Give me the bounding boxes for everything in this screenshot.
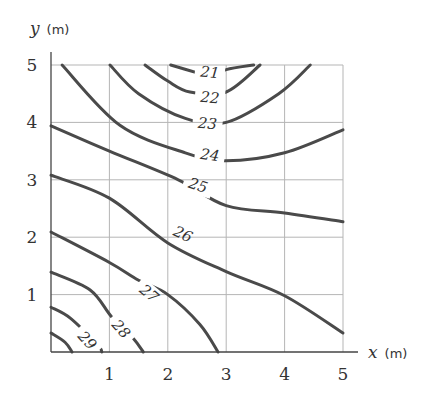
- y-tick-label: 3: [27, 170, 38, 190]
- x-tick-labels: 12345: [104, 364, 348, 384]
- contour-label: 25: [185, 174, 210, 197]
- y-axis-label: y (m): [29, 18, 69, 38]
- contour-lines: [51, 65, 343, 352]
- x-tick-label: 5: [338, 364, 349, 384]
- y-tick-labels: 12345: [27, 55, 38, 305]
- y-tick-label: 2: [27, 227, 38, 247]
- contour-label: 29: [73, 327, 100, 354]
- contour-line-27: [51, 232, 218, 352]
- contour-chart: 212223242526272829 12345 12345 x (m) y (…: [0, 0, 435, 403]
- contour-label: 21: [199, 63, 221, 83]
- contour-labels: 212223242526272829: [73, 63, 220, 354]
- x-tick-label: 2: [162, 364, 173, 384]
- contour-line-unlabeled: [51, 333, 72, 352]
- contour-line-25: [51, 126, 343, 222]
- contour-label: 28: [107, 315, 134, 342]
- y-tick-label: 1: [27, 285, 38, 305]
- contour-label: 22: [199, 88, 221, 108]
- x-tick-label: 3: [221, 364, 232, 384]
- contour-label: 23: [196, 114, 218, 134]
- x-tick-label: 4: [279, 364, 290, 384]
- grid-lines: [51, 65, 343, 352]
- x-tick-label: 1: [104, 364, 115, 384]
- y-tick-label: 4: [27, 112, 38, 132]
- contour-label: 27: [135, 280, 162, 307]
- x-axis-label: x (m): [368, 342, 407, 362]
- y-tick-label: 5: [27, 55, 38, 75]
- contour-label: 24: [198, 145, 220, 166]
- contour-label: 26: [170, 222, 196, 247]
